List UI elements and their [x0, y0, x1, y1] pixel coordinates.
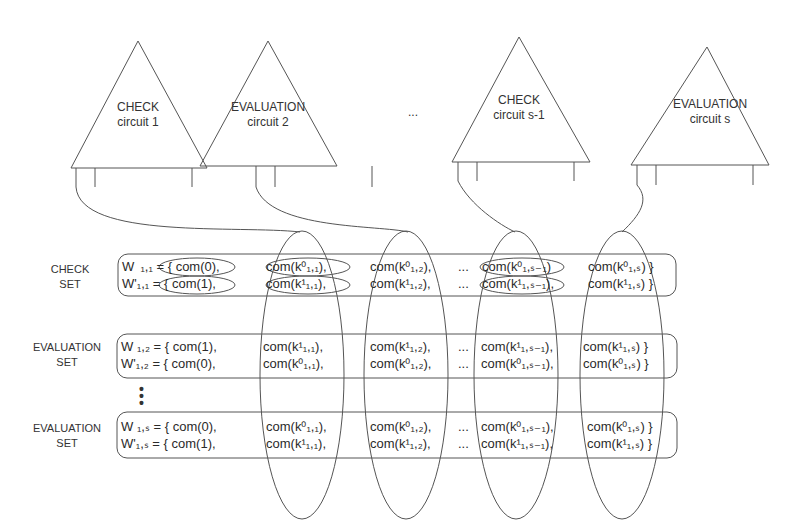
set-type: CHECK: [25, 262, 115, 277]
circuit-name: circuit 1: [78, 115, 198, 130]
commit-1: com(k¹₁,₁),: [266, 436, 326, 452]
commit-1: com(k¹₁,₁),: [263, 339, 323, 355]
circuit-type: CHECK: [459, 93, 579, 108]
set-label-2: EVALUATION SET: [22, 340, 112, 370]
commit-2: com(k⁰₁,₂),: [370, 419, 431, 435]
commit-4: com(k⁰₁,ₛ) }: [588, 259, 654, 275]
w-value: W ₁,ₛ = { com(0),: [121, 419, 217, 435]
commit-2: com(k⁰₁,₂),: [370, 356, 431, 372]
set-type: EVALUATION: [22, 421, 112, 436]
w-value: W ₁,₂ = { com(1),: [121, 339, 217, 355]
set-word: SET: [22, 436, 112, 451]
commit-4: com(k¹₁,ₛ) }: [587, 436, 652, 452]
commit-2: com(k⁰₁,₂),: [370, 259, 431, 275]
commit-2: com(k¹₁,₂),: [370, 339, 431, 355]
commit-1: com(k¹₁,₁),: [266, 276, 326, 292]
w-value: W'₁,₁ = { com(1),: [122, 276, 216, 292]
circuit-label-3: CHECK circuit s-1: [459, 93, 579, 123]
circuit-type: EVALUATION: [208, 100, 328, 115]
set-label-3: EVALUATION SET: [22, 421, 112, 451]
commit-4: com(k⁰₁,ₛ) }: [587, 419, 653, 435]
commit-3: com(k⁰₁,ₛ₋₁): [482, 259, 551, 275]
commit-1: com(k⁰₁,₁),: [266, 419, 327, 435]
commit-3: com(k¹₁,ₛ₋₁),: [481, 436, 553, 452]
w-value: W ₁,₁ = { com(0),: [122, 259, 220, 275]
circuit-name: circuit s: [650, 112, 770, 127]
dots: ...: [458, 436, 469, 452]
circuit-label-1: CHECK circuit 1: [78, 100, 198, 130]
circuit-name: circuit s-1: [459, 108, 579, 123]
dots: ...: [458, 339, 469, 355]
commit-3: com(k¹₁,ₛ₋₁),: [481, 339, 553, 355]
commit-4: com(k¹₁,ₛ) }: [588, 276, 653, 292]
dots: ...: [458, 356, 469, 372]
dots: ...: [458, 259, 469, 275]
set-type: EVALUATION: [22, 340, 112, 355]
circuit-label-2: EVALUATION circuit 2: [208, 100, 328, 130]
commit-3: com(k⁰₁,ₛ₋₁),: [481, 356, 554, 372]
circuit-ellipsis: ...: [408, 105, 418, 119]
set-word: SET: [25, 277, 115, 292]
commit-4: com(k¹₁,ₛ) }: [583, 339, 648, 355]
set-label-1: CHECK SET: [25, 262, 115, 292]
circuit-label-4: EVALUATION circuit s: [650, 97, 770, 127]
circuit-type: CHECK: [78, 100, 198, 115]
commit-2: com(k¹₁,₂),: [370, 436, 431, 452]
dots: ...: [458, 276, 469, 292]
commit-3: com(k⁰₁,ₛ₋₁),: [481, 419, 554, 435]
commit-1: com(k⁰₁,₁),: [266, 259, 327, 275]
dots: ...: [458, 419, 469, 435]
commit-2: com(k¹₁,₂),: [370, 276, 431, 292]
circuit-type: EVALUATION: [650, 97, 770, 112]
commit-4: com(k⁰₁,ₛ) }: [583, 356, 649, 372]
vertical-ellipsis: •••: [139, 386, 144, 407]
commit-1: com(k⁰₁,₁),: [263, 356, 324, 372]
set-word: SET: [22, 355, 112, 370]
circuit-name: circuit 2: [208, 115, 328, 130]
w-value: W'₁,ₛ = { com(1),: [121, 436, 216, 452]
commit-3: com(k¹₁,ₛ₋₁),: [482, 276, 554, 292]
w-value: W'₁,₂ = { com(0),: [121, 356, 216, 372]
